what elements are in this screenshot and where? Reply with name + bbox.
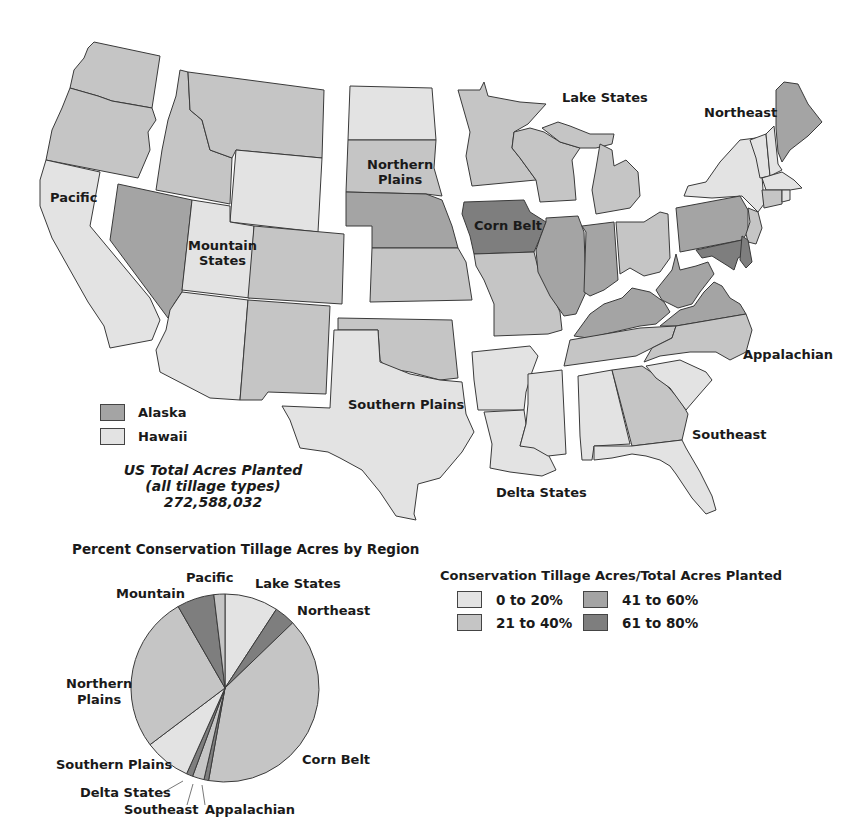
hawaii-swatch [100, 428, 125, 445]
page-header: AGRICULTURAL LANDS [30, 0, 172, 3]
alaska-label: Alaska [138, 405, 186, 420]
pie-label-corn-belt: Corn Belt [302, 752, 370, 767]
label-appalachian: Appalachian [743, 347, 833, 362]
us-total-title: US Total Acres Planted [108, 462, 318, 478]
region-northern-plains [346, 86, 472, 302]
label-southern-plains: Southern Plains [348, 397, 464, 412]
pie-chart-title: Percent Conservation Tillage Acres by Re… [72, 541, 419, 557]
legend-swatch-41-60 [583, 591, 608, 608]
pie-label-southern-plains: Southern Plains [56, 757, 172, 772]
label-northern-plains: Northern Plains [367, 157, 433, 187]
state-rhode-island [782, 190, 790, 202]
hawaii-label: Hawaii [138, 429, 187, 444]
state-maine [776, 82, 822, 162]
state-new-jersey [746, 208, 762, 244]
state-michigan-lower [592, 144, 640, 214]
legend-label-41-60: 41 to 60% [622, 593, 698, 608]
label-mountain-states: Mountain States [188, 238, 257, 268]
legend-label-0-20: 0 to 20% [496, 593, 563, 608]
us-total-subtitle: (all tillage types) [108, 478, 318, 494]
state-wyoming [230, 150, 322, 232]
legend-swatch-21-40 [457, 614, 482, 631]
pie-label-southeast: Southeast [124, 802, 199, 817]
state-nebraska [346, 192, 458, 248]
state-new-mexico [240, 300, 330, 400]
state-connecticut [762, 190, 782, 208]
pie-label-appalachian: Appalachian [205, 802, 295, 817]
region-delta-states [472, 346, 566, 476]
pie-label-northeast: Northeast [297, 603, 370, 618]
us-total-value: 272,588,032 [108, 494, 318, 510]
legend-swatch-61-80 [583, 614, 608, 631]
pie-label-mountain: Mountain [116, 586, 185, 601]
label-northeast: Northeast [704, 105, 777, 120]
legend-title: Conservation Tillage Acres/Total Acres P… [440, 568, 782, 583]
state-indiana [582, 222, 618, 296]
label-southeast: Southeast [692, 427, 767, 442]
state-ohio [616, 212, 670, 276]
state-kansas [370, 248, 472, 302]
pie-label-pacific: Pacific [186, 570, 233, 585]
legend-label-61-80: 61 to 80% [622, 616, 698, 631]
state-colorado [248, 226, 344, 304]
pie-label-northern-plains: NorthernPlains [66, 676, 132, 708]
pie-label-lake-states: Lake States [255, 576, 341, 591]
label-pacific: Pacific [50, 190, 97, 205]
pie-chart [131, 594, 319, 782]
state-florida [594, 440, 716, 514]
state-north-dakota [348, 86, 436, 140]
legend-label-21-40: 21 to 40% [496, 616, 572, 631]
label-lake-states: Lake States [562, 90, 648, 105]
state-montana [188, 72, 324, 158]
alaska-swatch [100, 404, 125, 421]
us-total-block: US Total Acres Planted (all tillage type… [108, 462, 318, 510]
legend-swatch-0-20 [457, 591, 482, 608]
label-delta-states: Delta States [496, 485, 587, 500]
pie-label-delta-states: Delta States [80, 785, 171, 800]
label-corn-belt: Corn Belt [474, 218, 542, 233]
